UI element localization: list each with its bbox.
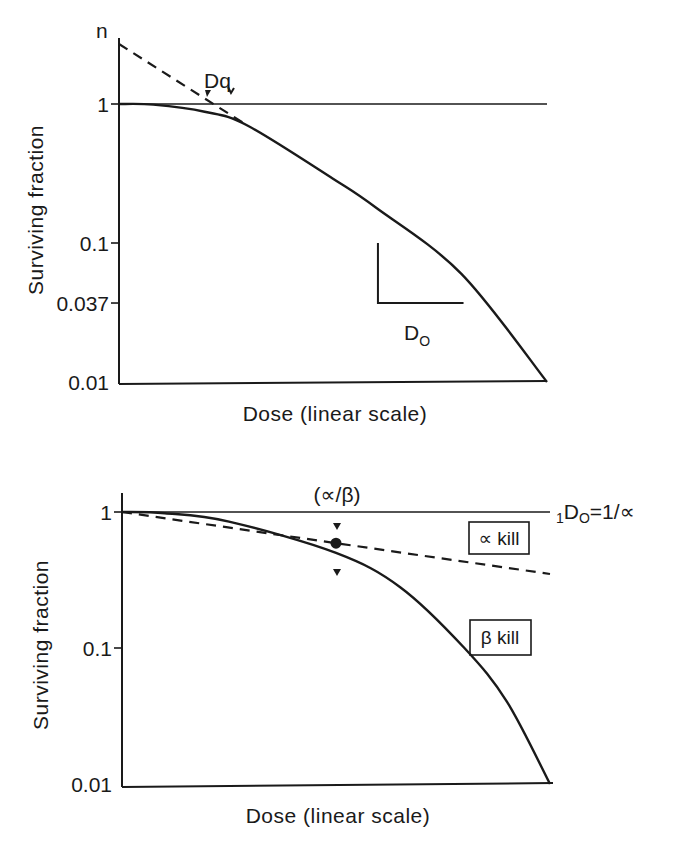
top-y-axis-title: Surviving fraction: [24, 125, 47, 295]
label-beta-kill: β kill: [481, 627, 519, 648]
bottom-x-axis: [122, 783, 553, 787]
chart-top: 10.10.0370.01 Surviving fraction Dose (l…: [24, 19, 547, 425]
top-y-tick-label: 0.037: [56, 292, 109, 315]
label-alpha-beta: (∝/β): [314, 483, 361, 506]
alpha-beta-point: [331, 538, 342, 549]
chart-bottom: 10.10.01 Surviving fraction Dose (linear…: [29, 483, 635, 827]
dq-arrow-marker: [205, 90, 211, 97]
label-d0-alpha: 1DO=1/∝: [556, 500, 635, 526]
top-y-tick-label: 0.01: [68, 371, 109, 394]
bottom-y-tick-label: 0.1: [83, 637, 112, 660]
dq-arrow-tail: [228, 87, 234, 93]
bottom-y-tick-label: 0.01: [71, 773, 112, 796]
label-alpha-kill: ∝ kill: [478, 528, 519, 549]
top-x-axis: [119, 381, 547, 384]
survival-curve: [119, 104, 547, 382]
alpha-beta-lower-marker: [333, 569, 341, 576]
label-d0: DO: [404, 321, 430, 349]
d0-triangle: [378, 243, 464, 303]
top-y-tick-label: 1: [97, 93, 109, 116]
bottom-y-tick-label: 1: [100, 501, 112, 524]
bottom-y-axis-title: Surviving fraction: [29, 560, 52, 730]
bottom-x-axis-title: Dose (linear scale): [246, 804, 431, 827]
top-y-tick-label: 0.1: [80, 232, 109, 255]
alpha-beta-upper-marker: [333, 523, 341, 530]
figure: 10.10.0370.01 Surviving fraction Dose (l…: [0, 0, 679, 848]
top-x-axis-title: Dose (linear scale): [243, 402, 428, 425]
label-n: n: [96, 19, 108, 42]
label-dq: Dq: [204, 69, 231, 92]
linear-quadratic-curve: [122, 512, 550, 784]
